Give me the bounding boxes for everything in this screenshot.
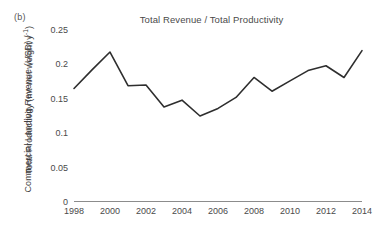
y-axis-units-exponent: -1 xyxy=(22,29,29,35)
x-tick-label: 2014 xyxy=(352,206,372,216)
y-tick-label: 0.25 xyxy=(50,25,68,35)
x-tick-label: 2004 xyxy=(172,206,192,216)
x-tick-label: 2006 xyxy=(208,206,228,216)
y-axis-label-line2: Total Productivity (mt wet weight y-1) xyxy=(20,2,36,198)
x-tick-label: 2000 xyxy=(100,206,120,216)
series-line xyxy=(74,30,362,202)
y-tick-label: 0.15 xyxy=(50,94,68,104)
y-axis-units-suffix: ) xyxy=(24,26,34,29)
x-axis-line xyxy=(74,201,362,202)
y-axis-label-line2-text: Total Productivity (mt wet weight y-1) xyxy=(22,26,34,174)
x-tick-label: 2008 xyxy=(244,206,264,216)
y-tick-label: 0.1 xyxy=(55,128,68,138)
y-tick-label: 0.2 xyxy=(55,59,68,69)
x-tick-label: 2002 xyxy=(136,206,156,216)
y-axis-label-line1: Commercial Landing Revenue (USD) / xyxy=(20,16,36,212)
series-polyline xyxy=(74,51,362,116)
chart-figure: (b) Total Revenue / Total Productivity C… xyxy=(0,0,383,231)
x-tick-label: 2010 xyxy=(280,206,300,216)
y-tick-label: 0.05 xyxy=(50,163,68,173)
plot-area: 00.050.10.150.20.25 xyxy=(74,30,362,202)
x-tick-label: 1998 xyxy=(64,206,84,216)
x-tick-label: 2012 xyxy=(316,206,336,216)
y-axis-units-prefix: Total Productivity (mt wet weight y xyxy=(24,35,34,174)
chart-title: Total Revenue / Total Productivity xyxy=(0,14,383,25)
